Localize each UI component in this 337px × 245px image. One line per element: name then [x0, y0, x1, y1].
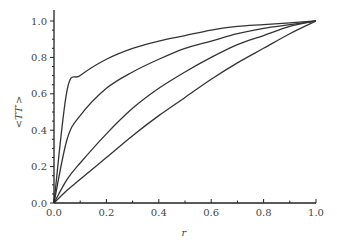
y-tick-label: 0.8 [31, 52, 47, 63]
axes [54, 10, 316, 203]
y-tick-label: 0.0 [31, 198, 47, 209]
x-tick-label: 0.0 [46, 207, 62, 218]
series-line-curve-2 [54, 21, 316, 203]
x-tick-label: 0.2 [98, 207, 114, 218]
y-axis-label: <TT′> [13, 96, 24, 129]
plot-curves [54, 21, 316, 203]
x-tick-label: 0.8 [256, 207, 272, 218]
x-tick-label: 0.4 [151, 207, 167, 218]
y-tick-label: 0.4 [31, 125, 47, 136]
y-ticks: 0.00.20.40.60.81.0 [31, 16, 54, 209]
x-tick-label: 1.0 [308, 207, 324, 218]
x-tick-label: 0.6 [203, 207, 219, 218]
y-tick-label: 1.0 [31, 16, 47, 27]
chart: 0.00.20.40.60.81.0 0.00.20.40.60.81.0 r … [0, 0, 337, 245]
x-axis-label: r [182, 227, 188, 238]
y-tick-label: 0.2 [31, 161, 47, 172]
x-ticks: 0.00.20.40.60.81.0 [46, 199, 324, 218]
y-tick-label: 0.6 [31, 88, 47, 99]
